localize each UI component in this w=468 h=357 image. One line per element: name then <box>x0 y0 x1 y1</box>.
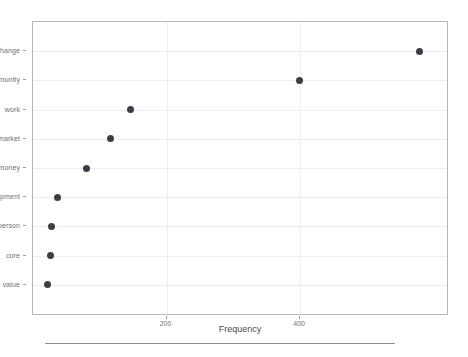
grid-line-vertical <box>167 22 168 314</box>
y-tick-label: person <box>0 222 20 229</box>
y-tick-mark <box>23 225 26 226</box>
y-tick-mark <box>23 138 26 139</box>
x-tick-mark <box>299 316 300 319</box>
grid-line-horizontal <box>33 139 447 140</box>
y-tick-label: work <box>5 105 20 112</box>
y-tick-mark <box>23 284 26 285</box>
grid-line-horizontal <box>33 80 447 81</box>
y-tick-mark <box>23 255 26 256</box>
grid-line-horizontal <box>33 168 447 169</box>
y-tick-label: core <box>6 251 20 258</box>
y-axis-labels: valuecorepersonopmentmoneymarketworkmmun… <box>0 21 26 315</box>
data-point <box>127 106 134 113</box>
y-tick-mark <box>23 109 26 110</box>
bottom-divider-rule <box>45 343 395 344</box>
x-tick-mark <box>166 316 167 319</box>
data-point <box>416 48 423 55</box>
y-tick-mark <box>23 167 26 168</box>
y-tick-label: opment <box>0 193 20 200</box>
data-point <box>83 165 90 172</box>
y-tick-label: change <box>0 47 20 54</box>
plot-area <box>33 22 447 314</box>
plot-frame <box>32 21 448 315</box>
x-axis-title: Frequency <box>32 324 448 334</box>
data-point <box>44 281 51 288</box>
data-point <box>107 135 114 142</box>
grid-line-horizontal <box>33 256 447 257</box>
data-point <box>296 77 303 84</box>
data-point <box>47 252 54 259</box>
grid-line-horizontal <box>33 51 447 52</box>
y-tick-label: market <box>0 134 20 141</box>
grid-line-vertical <box>300 22 301 314</box>
y-tick-mark <box>23 79 26 80</box>
scatter-chart-figure: valuecorepersonopmentmoneymarketworkmmun… <box>0 0 468 357</box>
y-tick-label: money <box>0 164 20 171</box>
data-point <box>48 223 55 230</box>
grid-line-horizontal <box>33 285 447 286</box>
grid-line-horizontal <box>33 197 447 198</box>
grid-line-horizontal <box>33 226 447 227</box>
y-tick-mark <box>23 50 26 51</box>
y-tick-label: mmunity <box>0 76 20 83</box>
data-point <box>54 194 61 201</box>
grid-line-horizontal <box>33 110 447 111</box>
y-tick-label: value <box>3 280 20 287</box>
y-tick-mark <box>23 196 26 197</box>
